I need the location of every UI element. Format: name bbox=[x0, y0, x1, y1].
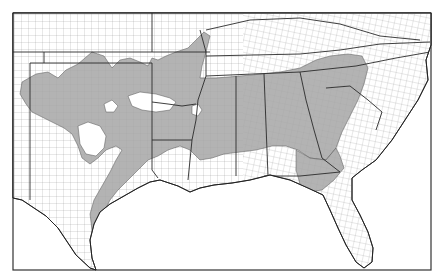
distribution-map bbox=[0, 0, 437, 279]
